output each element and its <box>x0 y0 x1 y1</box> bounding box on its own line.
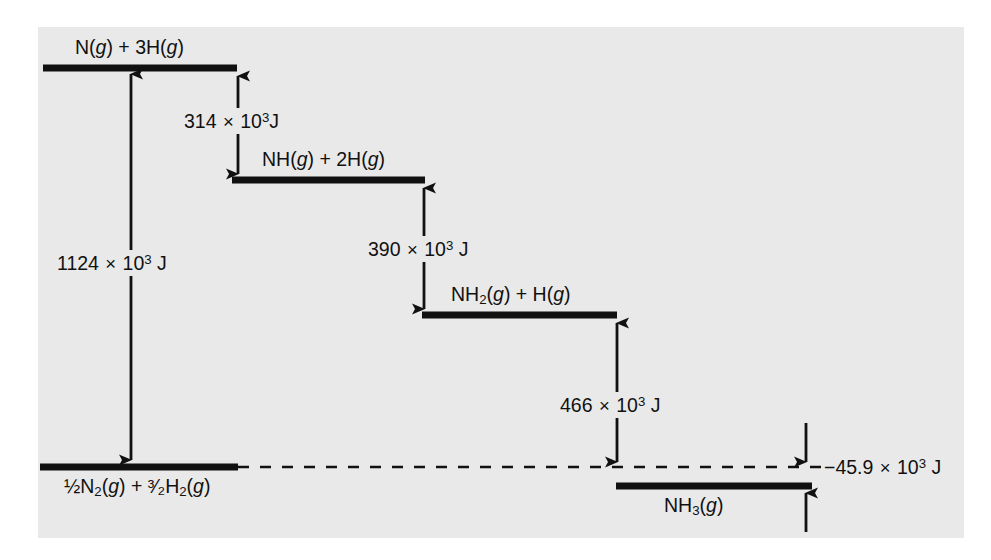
level-label-n-3h: N(g) + 3H(g) <box>75 38 184 58</box>
energy-label-466: 466 × 103 J <box>555 392 665 418</box>
energy-label-minus-45-9: −45.9 × 103 J <box>824 457 941 477</box>
level-bars <box>40 68 812 486</box>
energy-label-1124: 1124 × 103 J <box>52 250 172 276</box>
level-label-nh3: NH3(g) <box>664 496 723 518</box>
level-label-nh-2h: NH(g) + 2H(g) <box>262 150 385 170</box>
level-label-reactants: ½N2(g) + ³⁄₂H2(g) <box>64 477 210 499</box>
level-label-nh2-h: NH2(g) + H(g) <box>451 285 571 307</box>
energy-label-390: 390 × 103 J <box>363 236 473 262</box>
energy-level-diagram-figure: N(g) + 3H(g) NH(g) + 2H(g) NH2(g) + H(g)… <box>0 0 991 560</box>
energy-label-314: 314 × 103J <box>179 108 284 134</box>
